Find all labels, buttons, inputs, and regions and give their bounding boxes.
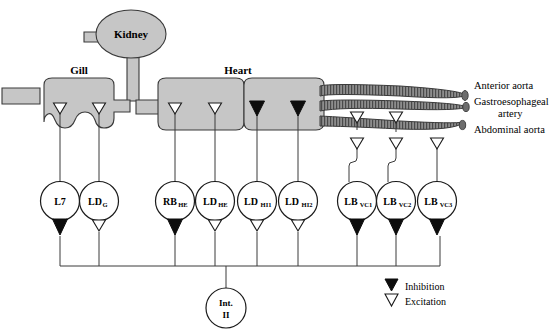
heart-label: Heart <box>224 64 252 76</box>
int2-soma[interactable] <box>206 288 246 328</box>
canvas-background <box>0 0 559 334</box>
neuron-lbvc1-subscript: VC1 <box>360 201 373 208</box>
neuron-lbvc2-label: LB <box>383 196 397 207</box>
anterior-aorta-label: Anterior aorta <box>474 80 534 91</box>
neuron-ldhe-subscript: HE <box>218 201 227 208</box>
neuron-lbvc1-label: LB <box>344 196 358 207</box>
neuron-ldhi1-label: LD <box>244 196 258 207</box>
neuron-lbvc1[interactable]: LB VC1 <box>338 182 377 221</box>
neuron-lbvc3-subscript: VC3 <box>440 201 453 208</box>
gastroesophageal-artery-end-cap <box>463 102 469 111</box>
neuron-lbvc3-label: LB <box>424 196 438 207</box>
gill-label: Gill <box>70 64 88 76</box>
neuron-l7[interactable]: L7 <box>41 182 80 221</box>
neuron-rbhe-label: RB <box>163 196 177 207</box>
neuron-ldhi2-label: LD <box>285 196 299 207</box>
neuron-ldg[interactable]: LD G <box>80 182 119 221</box>
neuron-lbvc2[interactable]: LB VC2 <box>377 182 416 221</box>
int2-label-line2: II <box>222 310 230 320</box>
neuron-ldhi2-subscript: HI2 <box>302 201 313 208</box>
int2-label-line1: Int. <box>219 298 233 308</box>
kidney-stem <box>127 55 139 101</box>
abdominal-aorta-end-cap <box>459 120 465 129</box>
neuron-ldhe-label: LD <box>203 196 217 207</box>
neuron-ldhi2[interactable]: LD HI2 <box>279 182 318 221</box>
circuit-diagram: Kidney Gill Heart Anterior aorta Gastroe… <box>0 0 559 334</box>
neuron-ldg-subscript: G <box>102 201 107 208</box>
neuron-rbhe-subscript: HE <box>178 201 187 208</box>
neuron-ldhi1-subscript: HI1 <box>261 201 272 208</box>
neuron-lbvc3[interactable]: LB VC3 <box>418 182 457 221</box>
kidney-label: Kidney <box>114 28 149 40</box>
anterior-aorta-end-cap <box>462 91 468 101</box>
neuron-ldg-label: LD <box>88 196 102 207</box>
gastroesophageal-artery-label-line2: artery <box>498 108 523 119</box>
gill-inlet-tube <box>2 88 40 104</box>
neuron-lbvc2-subscript: VC2 <box>399 201 412 208</box>
neuron-rbhe[interactable]: RB HE <box>156 182 195 221</box>
neuron-ldhi1[interactable]: LD HI1 <box>238 182 277 221</box>
abdominal-aorta-label: Abdominal aorta <box>474 124 545 135</box>
neuron-ldhe[interactable]: LD HE <box>196 182 235 221</box>
legend-inhibition-label: Inhibition <box>405 281 444 292</box>
gastroesophageal-artery-label: Gastroesophageal <box>474 96 549 107</box>
neuron-l7-label: L7 <box>54 196 66 207</box>
legend-excitation-label: Excitation <box>405 296 446 307</box>
